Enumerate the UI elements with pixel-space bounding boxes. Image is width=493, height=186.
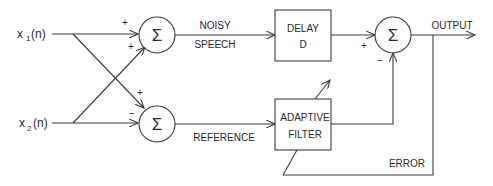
delay-box bbox=[275, 10, 331, 61]
error-feedback-diagonal bbox=[283, 150, 297, 175]
input-x1-label: x 1 (n) bbox=[17, 27, 46, 43]
speech-label: SPEECH bbox=[194, 39, 235, 50]
delay-block: DELAY D bbox=[275, 10, 331, 61]
sign-minus: − bbox=[377, 55, 383, 66]
sign-plus: + bbox=[122, 17, 128, 28]
x2-subscript: 2 bbox=[27, 124, 32, 133]
filter-to-output-sum-arrow bbox=[331, 53, 393, 124]
sigma-icon: Σ bbox=[152, 115, 163, 134]
sign-plus: + bbox=[128, 41, 134, 52]
x1-suffix: (n) bbox=[31, 27, 46, 41]
block-diagram: x 1 (n) x 2 (n) Σ + + Σ + − NOISY SPEECH… bbox=[0, 0, 493, 186]
input-x2-label: x 2 (n) bbox=[19, 116, 48, 133]
x2-base: x bbox=[19, 116, 25, 130]
x1-base: x bbox=[17, 27, 23, 41]
x2-suffix: (n) bbox=[33, 116, 48, 130]
error-label: ERROR bbox=[389, 158, 425, 169]
output-label: OUTPUT bbox=[431, 20, 472, 31]
adaptation-arrow bbox=[315, 80, 330, 99]
sign-minus: − bbox=[129, 108, 135, 119]
sigma-icon: Σ bbox=[388, 26, 399, 45]
summer-bottom: Σ + − bbox=[129, 87, 175, 142]
noisy-label: NOISY bbox=[199, 20, 230, 31]
delay-d-label: D bbox=[299, 39, 306, 50]
summer-output: Σ + − bbox=[361, 17, 411, 66]
sign-plus: + bbox=[137, 87, 143, 98]
sign-plus: + bbox=[361, 40, 367, 51]
adaptive-filter-box bbox=[275, 99, 331, 150]
reference-label: REFERENCE bbox=[193, 132, 255, 143]
adaptive-filter-block: ADAPTIVE FILTER bbox=[275, 99, 331, 150]
delay-label: DELAY bbox=[287, 23, 319, 34]
summer-top: Σ + + bbox=[122, 17, 175, 53]
adaptive-label: ADAPTIVE bbox=[280, 112, 330, 123]
filter-label: FILTER bbox=[288, 129, 322, 140]
sigma-icon: Σ bbox=[152, 26, 163, 45]
